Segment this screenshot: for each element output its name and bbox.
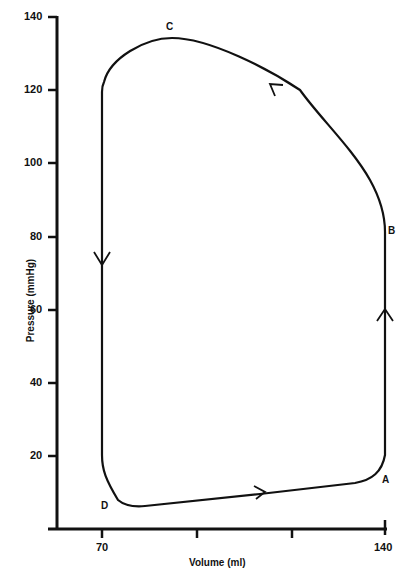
pv-loop-chart bbox=[0, 0, 409, 578]
y-tick-120: 120 bbox=[24, 83, 42, 95]
point-label-c: C bbox=[166, 21, 173, 32]
y-axis-title: Pressure (mmHg) bbox=[25, 251, 36, 351]
x-axis-title: Volume (ml) bbox=[189, 557, 245, 568]
y-tick-80: 80 bbox=[30, 230, 42, 242]
axes bbox=[48, 16, 387, 530]
y-tick-100: 100 bbox=[24, 156, 42, 168]
y-tick-40: 40 bbox=[30, 376, 42, 388]
point-label-b: B bbox=[388, 225, 395, 236]
arrow-up-left-icon bbox=[270, 84, 283, 96]
point-label-a: A bbox=[382, 474, 389, 485]
pv-loop-curve bbox=[102, 38, 385, 506]
x-tick-70: 70 bbox=[96, 541, 108, 553]
x-tick-140: 140 bbox=[374, 541, 392, 553]
direction-arrows bbox=[94, 84, 393, 499]
y-tick-20: 20 bbox=[30, 449, 42, 461]
point-label-d: D bbox=[101, 500, 108, 511]
y-tick-140: 140 bbox=[24, 10, 42, 22]
arrow-right-icon bbox=[254, 486, 265, 499]
